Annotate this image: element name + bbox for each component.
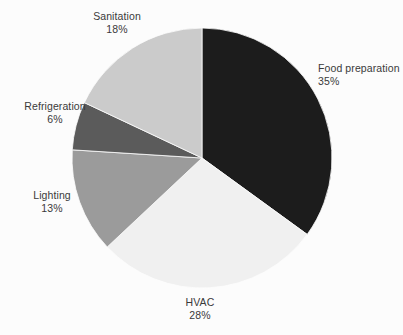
- slice-label-name: Lighting: [18, 189, 86, 202]
- pie-chart-svg: [0, 0, 403, 335]
- slice-label-value: 28%: [165, 309, 235, 322]
- slice-label-food-preparation: Food preparation 35%: [318, 62, 400, 88]
- slice-label-name: Refrigeration: [10, 100, 100, 113]
- slice-label-name: Food preparation: [318, 62, 400, 75]
- slice-label-sanitation: Sanitation 18%: [75, 10, 159, 36]
- slice-label-lighting: Lighting 13%: [18, 189, 86, 215]
- slice-label-value: 13%: [18, 202, 86, 215]
- slice-label-hvac: HVAC 28%: [165, 296, 235, 322]
- slice-label-name: Sanitation: [75, 10, 159, 23]
- slice-label-name: HVAC: [165, 296, 235, 309]
- slice-label-value: 35%: [318, 75, 400, 88]
- pie-chart: Food preparation 35% HVAC 28% Sanitation…: [0, 0, 403, 335]
- slice-label-value: 18%: [75, 23, 159, 36]
- slice-label-refrigeration: Refrigeration 6%: [10, 100, 100, 126]
- pie-slice-group: [72, 28, 332, 288]
- slice-label-value: 6%: [10, 113, 100, 126]
